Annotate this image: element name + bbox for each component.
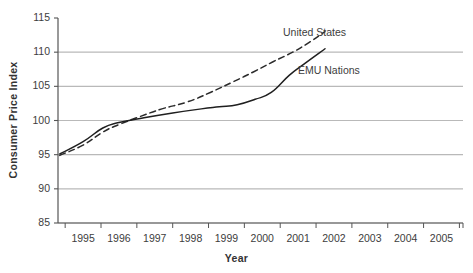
y-tick-label-105: 105 <box>24 79 50 91</box>
gridlines-group <box>58 52 463 223</box>
series-line-emu-nations <box>60 49 325 154</box>
data-series-group <box>60 32 325 156</box>
series-label-emu-nations: EMU Nations <box>298 64 360 76</box>
series-line-united-states <box>60 32 325 156</box>
chart-figure: Consumer Price Index Year 85909510010511… <box>0 0 473 273</box>
x-tick-marks-group <box>65 223 463 228</box>
y-tick-label-110: 110 <box>24 45 50 57</box>
series-label-united-states: United States <box>283 26 346 38</box>
x-axis-title: Year <box>0 252 473 264</box>
y-tick-label-100: 100 <box>24 114 50 126</box>
y-tick-label-90: 90 <box>24 182 50 194</box>
y-tick-label-85: 85 <box>24 216 50 228</box>
x-tick-label-2005: 2005 <box>420 232 462 244</box>
y-tick-label-95: 95 <box>24 148 50 160</box>
y-tick-label-115: 115 <box>24 11 50 23</box>
